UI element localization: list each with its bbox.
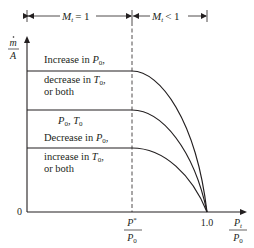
origin-label: 0 — [17, 206, 22, 217]
svg-text:Pt: Pt — [233, 217, 243, 230]
region-label-choked: Mt= 1 — [61, 10, 90, 24]
x-axis-label: Pt P0 — [229, 217, 247, 245]
svg-text:P0, T0: P0, T0 — [57, 115, 83, 128]
critical-ratio-label: P* P0 — [124, 216, 142, 245]
x-axis-arrow-icon — [240, 209, 247, 215]
curve-label-nominal: P0, T0 — [57, 115, 83, 128]
svg-text:Increase in P0,: Increase in P0, — [44, 54, 105, 67]
y-axis-label: m A — [8, 36, 19, 61]
svg-text:m: m — [9, 37, 16, 48]
y-axis-arrow-icon — [24, 36, 30, 43]
svg-text:P*: P* — [126, 216, 137, 228]
svg-text:Decrease in P0,: Decrease in P0, — [44, 132, 108, 145]
axes — [27, 40, 242, 212]
curve-label-low: Decrease in P0, increase in T0, or both — [44, 132, 108, 174]
svg-text:or both: or both — [44, 163, 75, 174]
mass-flux-diagram: Mt= 1 Mt< 1 m A Increase in P0, decrease… — [0, 0, 254, 248]
svg-text:A: A — [9, 50, 17, 61]
svg-text:or both: or both — [44, 86, 75, 97]
region-label-unchoked: Mt< 1 — [151, 10, 180, 24]
svg-text:P0: P0 — [232, 232, 243, 245]
region-dimension-line — [27, 10, 207, 22]
curve-label-high: Increase in P0, decrease in T0, or both — [44, 54, 106, 97]
svg-text:P0: P0 — [126, 232, 137, 245]
x-tick-one: 1.0 — [201, 217, 214, 228]
